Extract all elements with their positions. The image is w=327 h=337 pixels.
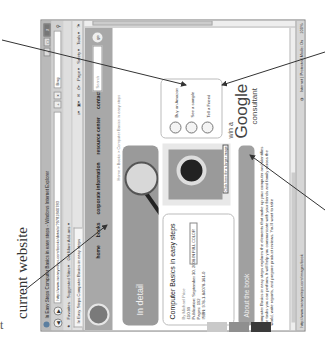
tell-a-friend-button[interactable]: Tell a Friend xyxy=(200,84,216,134)
stop-icon[interactable]: x xyxy=(54,92,62,100)
site-search-input[interactable]: Search xyxy=(93,46,103,92)
buy-on-amazon-button[interactable]: Buy on Amazon xyxy=(168,84,184,134)
nav-home[interactable]: home xyxy=(95,245,101,258)
status-bar: http://www.ineasysteps.com/images/book ◍… xyxy=(296,21,305,331)
favorites-button[interactable]: Favorites xyxy=(65,302,70,319)
site-header: home books corporate information resourc… xyxy=(85,28,113,331)
site-logo[interactable] xyxy=(88,304,110,326)
page-content: home books corporate information resourc… xyxy=(85,28,296,331)
book-actions-panel: Buy on Amazon See a sample Tell a Friend xyxy=(161,79,223,139)
mail-icon[interactable]: ✉ xyxy=(75,94,80,97)
maximize-button[interactable]: □ xyxy=(43,38,50,47)
cover-disc-graphic xyxy=(177,156,207,186)
favorites-star-icon[interactable]: ★ xyxy=(65,324,70,328)
page-menu[interactable]: Page ▾ xyxy=(75,68,80,81)
swatch-3 xyxy=(251,322,271,332)
refresh-icon[interactable]: + xyxy=(54,101,62,109)
address-bar[interactable]: http://www.ineasysteps.com/books/details… xyxy=(54,112,62,304)
vertical-scrollbar[interactable] xyxy=(85,21,296,28)
full-color-badge: IN FULL COLOR xyxy=(190,223,198,265)
swatch-1 xyxy=(207,322,227,332)
breadcrumb[interactable]: Home > Books > Computer Basics in easy s… xyxy=(116,95,121,181)
status-url: http://www.ineasysteps.com/images/book xyxy=(298,107,303,327)
book-cover-image[interactable]: Click here for a larger image xyxy=(163,144,231,206)
home-icon[interactable]: ⌂▾ xyxy=(75,111,80,116)
tab-row: In Easy Steps Computer Basics in easy st… xyxy=(73,21,84,331)
get-more-addons-link[interactable]: Get More Add-ons ▾ xyxy=(65,223,70,260)
command-bar: ⌂▾ ▣▾ ✉ ⎙▾ Page ▾ Safety ▾ Tools ▾ ?▾ xyxy=(75,24,80,228)
title-bar: In Easy Steps Computer Basics in easy st… xyxy=(42,21,52,331)
envelope-icon xyxy=(202,122,214,134)
tools-menu[interactable]: Tools ▾ xyxy=(75,32,80,45)
help-menu[interactable]: ?▾ xyxy=(75,24,80,28)
print-icon[interactable]: ⎙▾ xyxy=(75,85,80,90)
book-title: Computer Basics in easy steps xyxy=(169,220,176,320)
about-heading-bar: About the book xyxy=(239,146,255,326)
suggested-sites-link[interactable]: Suggested Sites ▾ xyxy=(65,265,70,299)
nav-resource-center[interactable]: resource center xyxy=(95,117,101,155)
vscroll-thumb[interactable] xyxy=(93,21,213,26)
site-search-go-button[interactable]: go xyxy=(93,33,103,43)
google-consultant-ad[interactable]: win a Google consultant xyxy=(227,77,287,139)
book-isbn: ISBN: 978-1-84078-361-0 xyxy=(201,220,206,320)
nav-books[interactable]: books xyxy=(95,222,101,237)
search-icon[interactable]: ⚲ xyxy=(55,24,61,28)
magnifier-icon xyxy=(125,162,159,196)
ie-logo-icon xyxy=(44,322,50,328)
back-button[interactable]: ◀ xyxy=(53,319,62,328)
favorites-bar: ★ Favorites Suggested Sites ▾ Get More A… xyxy=(64,21,73,331)
search-input[interactable]: Bing xyxy=(54,31,62,89)
see-a-sample-button[interactable]: See a sample xyxy=(184,84,200,134)
globe-icon: ◍ xyxy=(298,98,303,101)
browser-window: In Easy Steps Computer Basics in easy st… xyxy=(41,20,306,332)
ad-line2: Google xyxy=(234,77,250,139)
nav-corporate-information[interactable]: corporate information xyxy=(95,162,101,214)
ad-line3: consultant xyxy=(250,77,259,139)
caption-text: current website xyxy=(14,226,31,318)
see-a-sample-label: See a sample xyxy=(189,92,194,118)
tab-active[interactable]: In Easy Steps Computer Basics in easy st… xyxy=(73,228,82,328)
buy-on-amazon-label: Buy on Amazon xyxy=(173,88,178,117)
page-color-swatches xyxy=(207,322,271,332)
zoom-level[interactable]: 100% xyxy=(298,24,303,34)
caption: current website xyxy=(2,210,42,335)
about-text: Computer Basics in easy steps explores t… xyxy=(259,146,274,326)
window-title: In Easy Steps Computer Basics in easy st… xyxy=(44,60,49,319)
tell-a-friend-label: Tell a Friend xyxy=(205,95,210,118)
forward-button[interactable]: ▶ xyxy=(53,307,62,316)
address-row: ◀ ▶ http://www.ineasysteps.com/books/det… xyxy=(52,21,64,331)
about-heading: About the book xyxy=(243,274,250,318)
banner-label: In detail xyxy=(135,284,145,316)
cover-tooltip: Click here for a larger image xyxy=(223,144,229,193)
site-nav: home books corporate information resourc… xyxy=(95,84,101,259)
cart-icon xyxy=(170,122,182,134)
safety-menu[interactable]: Safety ▾ xyxy=(75,49,80,64)
close-button[interactable]: X xyxy=(43,24,50,37)
swatch-2 xyxy=(229,322,249,332)
minimize-button[interactable]: – xyxy=(43,48,50,57)
feeds-icon[interactable]: ▣▾ xyxy=(75,101,80,107)
book-details-card: Computer Basics in easy steps By Michael… xyxy=(163,214,235,326)
in-detail-banner: In detail xyxy=(123,146,159,326)
magnifier-small-icon xyxy=(186,122,198,134)
status-zone: Internet | Protected Mode: On xyxy=(298,40,303,93)
